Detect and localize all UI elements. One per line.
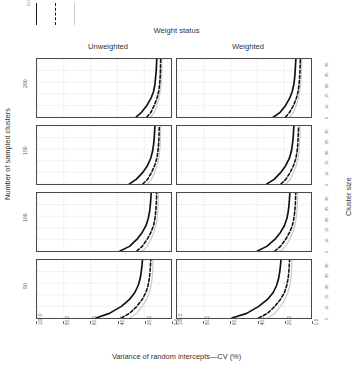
cluster-size-ticks-50: 51015202530 bbox=[318, 259, 344, 319]
x-tick-label: 80.0 bbox=[65, 316, 70, 325]
cluster-size-tick: 15 bbox=[324, 161, 329, 165]
x-tick-label: 20.0 bbox=[287, 316, 292, 325]
x-tick-mark bbox=[258, 321, 259, 324]
x-tick-group-weighted: 100.080.060.040.020.00.0 bbox=[176, 321, 312, 349]
cluster-size-tick: 10 bbox=[324, 171, 329, 175]
x-tick-mark bbox=[285, 321, 286, 324]
cluster-size-tick: 5 bbox=[324, 117, 329, 119]
strip-title-weight-status: Weight status bbox=[0, 26, 353, 35]
cluster-size-tick: 15 bbox=[324, 228, 329, 232]
cluster-size-tick: 20 bbox=[324, 284, 329, 288]
x-axis-ticks: 100.080.060.040.020.00.0100.080.060.040.… bbox=[36, 321, 312, 349]
panel-100-weighted[interactable] bbox=[176, 192, 312, 252]
panel-150-unweighted[interactable] bbox=[36, 125, 172, 185]
cluster-size-ticks-200: 51015202530 bbox=[318, 58, 344, 118]
column-label-unweighted: Unweighted bbox=[38, 42, 178, 51]
row-label-50: 50 bbox=[22, 283, 28, 289]
cluster-size-tick: 10 bbox=[324, 238, 329, 242]
x-tick-label: 60.0 bbox=[232, 316, 237, 325]
cluster-size-tick: 30 bbox=[324, 197, 329, 201]
x-tick-mark bbox=[312, 321, 313, 324]
cluster-size-tick: 30 bbox=[324, 130, 329, 134]
cluster-size-tick: 5 bbox=[324, 318, 329, 320]
x-tick-group-unweighted: 100.080.060.040.020.00.0 bbox=[36, 321, 172, 349]
legend: ICC bbox=[26, 2, 136, 28]
cluster-size-tick: 25 bbox=[324, 140, 329, 144]
legend-title: ICC bbox=[26, 0, 31, 6]
cluster-size-tick: 25 bbox=[324, 207, 329, 211]
x-tick-label: 40.0 bbox=[120, 316, 125, 325]
cluster-size-tick: 30 bbox=[324, 63, 329, 67]
x-tick-mark bbox=[145, 321, 146, 324]
x-tick-label: 0.0 bbox=[314, 319, 319, 325]
x-tick-mark bbox=[118, 321, 119, 324]
panel-50-unweighted[interactable] bbox=[36, 259, 172, 319]
panel-200-unweighted[interactable] bbox=[36, 58, 172, 118]
panel-row-50: 5051015202530 bbox=[36, 259, 312, 319]
panel-row-200: 20051015202530 bbox=[36, 58, 312, 118]
panel-grid: 2005101520253015051015202530100510152025… bbox=[36, 58, 312, 320]
legend-keys bbox=[36, 3, 77, 25]
panel-row-100: 10051015202530 bbox=[36, 192, 312, 252]
column-label-weighted: Weighted bbox=[178, 42, 318, 51]
cluster-size-tick: 10 bbox=[324, 104, 329, 108]
panel-200-weighted[interactable] bbox=[176, 58, 312, 118]
row-label-150: 150 bbox=[22, 146, 28, 155]
panel-row-150: 15051015202530 bbox=[36, 125, 312, 185]
cluster-size-tick: 5 bbox=[324, 251, 329, 253]
cluster-size-tick: 5 bbox=[324, 184, 329, 186]
cluster-size-ticks-100: 51015202530 bbox=[318, 192, 344, 252]
x-tick-mark bbox=[176, 321, 177, 324]
figure-canvas: ICC Weight status Unweighted Weighted Nu… bbox=[0, 0, 353, 376]
x-axis-title: Variance of random intercepts—CV (%) bbox=[0, 352, 353, 361]
x-tick-label: 40.0 bbox=[260, 316, 265, 325]
x-tick-label: 80.0 bbox=[205, 316, 210, 325]
x-tick-label: 100.0 bbox=[178, 314, 183, 326]
cluster-size-tick: 15 bbox=[324, 295, 329, 299]
x-tick-label: 100.0 bbox=[38, 314, 43, 326]
cluster-size-tick: 10 bbox=[324, 305, 329, 309]
y-axis-title-left: Number of sampled clusters bbox=[3, 108, 12, 200]
panel-150-weighted[interactable] bbox=[176, 125, 312, 185]
cluster-size-tick: 20 bbox=[324, 150, 329, 154]
x-tick-mark bbox=[172, 321, 173, 324]
y-axis-title-right: Cluster size bbox=[344, 177, 353, 216]
cluster-size-ticks-150: 51015202530 bbox=[318, 125, 344, 185]
x-tick-label: 60.0 bbox=[92, 316, 97, 325]
cluster-size-tick: 30 bbox=[324, 264, 329, 268]
legend-key-icc-high bbox=[74, 3, 77, 25]
cluster-size-tick: 20 bbox=[324, 217, 329, 221]
x-tick-label: 20.0 bbox=[147, 316, 152, 325]
cluster-size-tick: 25 bbox=[324, 274, 329, 278]
row-label-100: 100 bbox=[22, 213, 28, 222]
row-label-200: 200 bbox=[22, 79, 28, 88]
cluster-size-tick: 25 bbox=[324, 73, 329, 77]
cluster-size-tick: 15 bbox=[324, 94, 329, 98]
legend-key-icc-low bbox=[36, 3, 39, 25]
cluster-size-tick: 20 bbox=[324, 83, 329, 87]
panel-100-unweighted[interactable] bbox=[36, 192, 172, 252]
panel-50-weighted[interactable] bbox=[176, 259, 312, 319]
legend-key-icc-mid bbox=[55, 3, 58, 25]
x-tick-mark bbox=[36, 321, 37, 324]
